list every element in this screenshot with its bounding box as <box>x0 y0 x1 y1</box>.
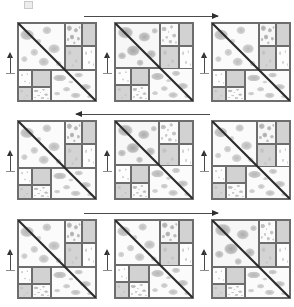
tick-arrow-shaft <box>10 55 11 73</box>
cell-top-right <box>179 23 193 46</box>
cell-bottom-mid <box>32 185 51 199</box>
diagram-row-0 <box>0 8 294 108</box>
cell-bottom-left <box>212 87 226 101</box>
tick-arrow-shaft <box>10 252 11 270</box>
cell-mid-right-upper <box>160 243 179 266</box>
cell-bottom-left <box>18 185 32 199</box>
cell-left-mid <box>212 70 226 87</box>
arrow-shaft <box>76 114 210 115</box>
cell-left-mid <box>212 267 226 284</box>
cell-center-lower <box>131 68 150 85</box>
cell-layer <box>18 220 96 298</box>
cell-bottom-mid <box>129 282 149 298</box>
tick-arrow-shaft <box>107 153 108 171</box>
cell-mid-right-upper <box>65 144 82 167</box>
cell-center-lower <box>131 165 150 184</box>
upper-left-triangle-region <box>18 23 65 70</box>
cell-top-mid <box>160 23 179 46</box>
cell-bottom-left <box>115 183 131 199</box>
cell-center-lower <box>32 168 51 185</box>
cell-bottom-mid <box>226 284 245 298</box>
upper-left-triangle-region <box>18 220 65 267</box>
panel-group-r2-c2 <box>200 219 292 305</box>
tick-arrow-cap <box>103 171 112 172</box>
lower-right-triangle-region <box>51 168 96 199</box>
cell-left-mid <box>18 168 32 185</box>
cell-mid-right-lower <box>276 46 290 69</box>
cell-mid-right-upper <box>65 46 82 69</box>
cell-top-right <box>179 220 193 243</box>
diagram-row-1 <box>0 106 294 206</box>
cell-top-right <box>276 23 290 46</box>
cell-bottom-left <box>18 87 32 101</box>
arrow-head-left-icon <box>75 111 82 117</box>
diagram-panel <box>114 22 194 102</box>
cell-bottom-left <box>115 85 131 101</box>
cell-mid-right-lower <box>276 144 290 167</box>
cell-top-right <box>276 121 290 144</box>
cell-bottom-mid <box>131 183 150 199</box>
diagram-panel <box>114 120 194 200</box>
left-tick-arrow-up-icon <box>6 52 15 74</box>
upper-left-triangle-region <box>115 220 160 265</box>
cell-top-mid <box>160 220 179 243</box>
cell-layer <box>115 23 193 101</box>
cell-mid-right-upper <box>65 243 82 266</box>
cell-top-right <box>82 220 96 243</box>
tick-arrow-cap <box>6 171 15 172</box>
cell-top-right <box>82 23 96 46</box>
tick-arrow-shaft <box>204 252 205 270</box>
cell-mid-right-upper <box>259 243 276 266</box>
tick-arrow-shaft <box>10 153 11 171</box>
cell-bottom-mid <box>226 87 245 101</box>
cell-layer <box>115 220 193 298</box>
upper-left-triangle-region <box>115 121 159 165</box>
row-arrow-left <box>76 110 210 119</box>
arrow-shaft <box>84 213 218 214</box>
lower-right-triangle-region <box>149 68 193 101</box>
left-tick-arrow-up-icon <box>103 52 112 74</box>
cell-top-mid <box>65 23 82 46</box>
cell-bottom-mid <box>32 87 51 101</box>
cell-top-mid <box>259 220 276 243</box>
diagram-panel <box>211 219 291 299</box>
cell-left-mid <box>115 68 131 85</box>
cell-bottom-left <box>212 183 226 199</box>
cell-center-lower <box>129 265 149 282</box>
upper-left-triangle-region <box>18 121 65 168</box>
tick-arrow-cap <box>103 73 112 74</box>
cell-center-lower <box>226 166 246 183</box>
upper-left-triangle-region <box>212 220 259 267</box>
panel-group-r1-c0 <box>6 120 98 206</box>
panel-group-r1-c2 <box>200 120 292 206</box>
cell-layer <box>212 121 290 199</box>
tick-arrow-shaft <box>204 55 205 73</box>
cell-left-mid <box>18 70 32 87</box>
cell-top-mid <box>257 121 276 144</box>
cell-center-lower <box>32 70 51 87</box>
diagram-panel <box>211 120 291 200</box>
lower-right-triangle-region <box>51 267 96 298</box>
row-arrow-right <box>84 12 218 21</box>
panel-group-r2-c1 <box>103 219 195 305</box>
cell-layer <box>115 121 193 199</box>
lower-right-triangle-region <box>245 267 290 298</box>
lower-right-triangle-region <box>149 265 193 298</box>
cell-top-mid <box>65 220 82 243</box>
diagram-row-2 <box>0 205 294 305</box>
cell-mid-right-upper <box>160 46 179 69</box>
arrow-head-right-icon <box>212 13 219 19</box>
tick-arrow-shaft <box>107 55 108 73</box>
left-tick-arrow-up-icon <box>200 52 209 74</box>
lower-right-triangle-region <box>149 165 193 199</box>
cell-left-mid <box>212 166 226 183</box>
diagram-panel <box>114 219 194 299</box>
left-tick-arrow-up-icon <box>103 150 112 172</box>
cell-left-mid <box>115 265 129 282</box>
panel-group-r0-c2 <box>200 22 292 108</box>
cell-bottom-mid <box>131 85 150 101</box>
left-tick-arrow-up-icon <box>103 249 112 271</box>
arrow-shaft <box>84 16 218 17</box>
panel-group-r2-c0 <box>6 219 98 305</box>
cell-bottom-left <box>18 284 32 298</box>
